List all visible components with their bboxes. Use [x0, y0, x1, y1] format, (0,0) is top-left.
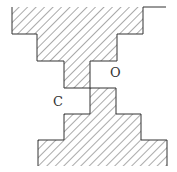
upper-hatched-shape — [12, 7, 143, 88]
label-c: C — [53, 94, 63, 109]
diagram-canvas: C O — [0, 0, 177, 172]
label-o: O — [110, 65, 121, 80]
